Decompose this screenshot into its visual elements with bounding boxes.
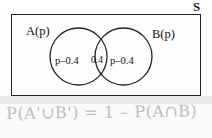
set-a-label: A(p) (26, 25, 50, 38)
venn-diagram-canvas: S A(p) B(p) p–0.4 0.4 p–0.4 P(A'∪B') = 1… (0, 0, 212, 138)
set-b-label: B(p) (152, 28, 175, 41)
paper-band-top (0, 0, 212, 12)
handwritten-equation: P(A'∪B') = 1 – P(A∩B) (6, 101, 212, 123)
universal-set-label: S (193, 0, 200, 13)
region-a-only-label: p–0.4 (55, 55, 79, 66)
region-b-only-label: p–0.4 (110, 55, 134, 66)
region-intersection-label: 0.4 (91, 55, 103, 66)
